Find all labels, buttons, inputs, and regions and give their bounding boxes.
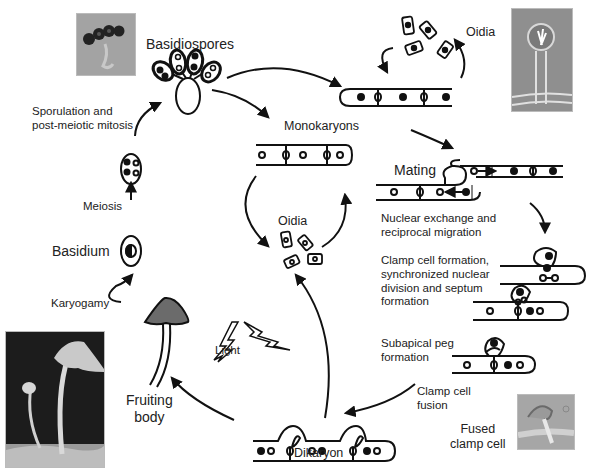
basidium-with-spores <box>149 49 224 114</box>
label-light: Light <box>215 344 240 358</box>
subapical-peg-hypha <box>452 338 535 373</box>
meiosis-cell <box>121 154 141 184</box>
label-oidia-top: Oidia <box>466 25 495 40</box>
life-cycle-diagram: Basidiospores Sporulation and post-meiot… <box>0 0 600 472</box>
monokaryon-hypha-open <box>256 145 352 165</box>
label-mating: Mating <box>394 162 436 179</box>
label-meiosis: Meiosis <box>83 200 122 214</box>
label-oidia-center: Oidia <box>278 214 307 229</box>
label-basidium: Basidium <box>52 243 110 260</box>
label-basidiospores: Basidiospores <box>146 36 234 53</box>
monokaryon-hypha-filled <box>340 89 452 106</box>
label-dikaryon: Dikaryon <box>294 446 343 461</box>
fruiting-body-drawing <box>145 298 188 387</box>
basidium-cell <box>121 236 141 266</box>
label-fruiting-body: Fruiting body <box>126 392 173 426</box>
label-karyogamy: Karyogamy <box>51 297 109 311</box>
oidia-top <box>402 16 454 58</box>
oidia-center <box>281 231 322 268</box>
label-sporulation: Sporulation and post-meiotic mitosis <box>32 105 133 133</box>
label-clamp-fusion: Clamp cell fusion <box>417 385 471 413</box>
cycle-drawing <box>0 0 600 472</box>
label-fused-clamp: Fused clamp cell <box>450 422 506 452</box>
label-clamp-formation: Clamp cell formation, synchronized nucle… <box>381 254 490 309</box>
clamp-formation-hypha <box>500 248 585 284</box>
label-monokaryons: Monokaryons <box>284 119 359 134</box>
label-nuclear-exchange: Nuclear exchange and reciprocal migratio… <box>381 212 496 240</box>
label-subapical-peg: Subapical peg formation <box>381 337 454 365</box>
